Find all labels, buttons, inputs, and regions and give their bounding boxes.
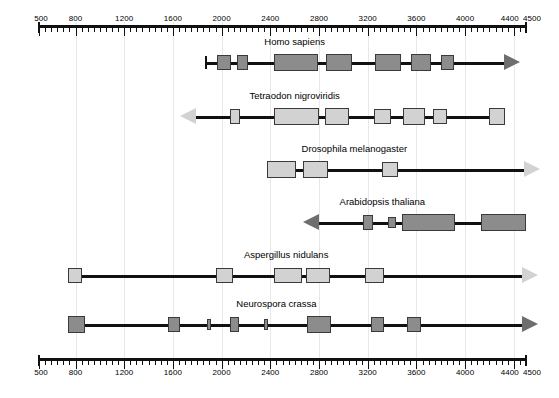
axis-tick-3900	[453, 361, 454, 365]
axis-tick-2500	[283, 361, 284, 365]
axis-tick-2750	[313, 28, 314, 32]
axis-tick-label-1600: 1600	[164, 14, 182, 23]
axis-tick-550	[45, 28, 46, 32]
axis-tick-2050	[228, 361, 229, 365]
arrow-end-homo-sapiens	[504, 54, 520, 70]
figure-canvas: 5008001200160020002400280032003600400044…	[0, 0, 559, 398]
axis-tick-label-4500: 4500	[523, 14, 541, 23]
axis-tick-2550	[289, 28, 290, 32]
axis-tick-3550	[410, 28, 411, 32]
axis-tick-4500	[526, 28, 527, 32]
axis-tick-750	[69, 28, 70, 32]
axis-tick-4050	[471, 28, 472, 32]
axis-tick-1200	[124, 28, 125, 36]
axis-tick-4450	[520, 28, 521, 32]
gene-box	[68, 316, 85, 333]
axis-tick-2300	[258, 28, 259, 32]
axis-tick-3350	[386, 361, 387, 365]
axis-tick-label-3600: 3600	[407, 368, 425, 377]
axis-tick-3700	[429, 28, 430, 32]
axis-tick-500	[39, 28, 40, 36]
axis-tick-1100	[112, 28, 113, 32]
axis-tick-3150	[362, 28, 363, 32]
axis-tick-750	[69, 361, 70, 365]
axis-tick-4500	[526, 361, 527, 365]
axis-tick-label-3200: 3200	[359, 14, 377, 23]
axis-tick-label-2000: 2000	[213, 368, 231, 377]
track-label-drosophila-melanogaster: Drosophila melanogaster	[302, 143, 408, 154]
axis-tick-1900	[209, 361, 210, 365]
axis-tick-label-1200: 1200	[115, 14, 133, 23]
track-drosophila-melanogaster: Drosophila melanogaster	[0, 143, 559, 189]
axis-tick-1700	[185, 28, 186, 32]
axis-tick-550	[45, 361, 46, 365]
axis-tick-2050	[228, 28, 229, 32]
axis-tick-1900	[209, 28, 210, 32]
axis-tick-2500	[283, 28, 284, 32]
track-aspergillus-nidulans: Aspergillus nidulans	[0, 249, 559, 295]
axis-tick-2250	[252, 28, 253, 32]
axis-tick-label-3600: 3600	[407, 14, 425, 23]
axis-tick-2450	[276, 28, 277, 32]
axis-tick-1650	[179, 361, 180, 365]
axis-tick-4450	[520, 361, 521, 365]
axis-tick-3850	[447, 361, 448, 365]
gene-box	[489, 108, 505, 125]
gene-box	[411, 54, 431, 71]
gene-box	[375, 54, 401, 71]
axis-tick-950	[94, 28, 95, 32]
axis-tick-3050	[349, 361, 350, 365]
axis-tick-4300	[502, 28, 503, 32]
axis-tick-label-500: 500	[34, 368, 48, 377]
axis-tick-3750	[435, 361, 436, 365]
axis-tick-label-4400: 4400	[501, 368, 519, 377]
axis-tick-3350	[386, 28, 387, 32]
axis-tick-1800	[197, 28, 198, 32]
axis-tick-3750	[435, 28, 436, 32]
axis-tick-4350	[508, 361, 509, 365]
axis-tick-1550	[167, 361, 168, 365]
axis-tick-1000	[100, 28, 101, 32]
gene-box	[303, 161, 328, 178]
axis-tick-1550	[167, 28, 168, 32]
gene-box	[216, 268, 233, 283]
gene-box	[407, 317, 422, 332]
gene-box	[264, 319, 268, 330]
gene-box	[403, 108, 425, 125]
gene-box	[306, 268, 330, 283]
axis-tick-2200	[246, 361, 247, 365]
axis-tick-2150	[240, 28, 241, 32]
axis-tick-3100	[356, 361, 357, 365]
axis-tick-3450	[398, 361, 399, 365]
gene-box	[217, 55, 232, 70]
gene-box	[363, 215, 372, 230]
axis-tick-1800	[197, 361, 198, 365]
axis-tick-3400	[392, 361, 393, 365]
axis-tick-1950	[216, 361, 217, 365]
gene-box	[382, 162, 398, 177]
gene-box	[267, 161, 296, 178]
axis-tick-label-800: 800	[69, 14, 83, 23]
axis-tick-3050	[349, 28, 350, 32]
gene-box	[274, 268, 302, 283]
axis-tick-2350	[264, 361, 265, 365]
axis-tick-4350	[508, 28, 509, 32]
arrow-end-aspergillus-nidulans	[522, 267, 538, 283]
axis-tick-3300	[380, 28, 381, 32]
backbone-tetraodon-nigroviridis	[196, 116, 504, 119]
axis-tick-2950	[337, 28, 338, 32]
axis-tick-2550	[289, 361, 290, 365]
axis-tick-3500	[404, 28, 405, 32]
axis-tick-3800	[441, 28, 442, 32]
axis-tick-3700	[429, 361, 430, 365]
axis-tick-2900	[331, 361, 332, 365]
axis-tick-2900	[331, 28, 332, 32]
gene-box	[326, 54, 352, 71]
start-tbar-homo-sapiens	[205, 56, 207, 69]
gene-box	[237, 55, 247, 70]
axis-tick-700	[63, 361, 64, 365]
arrow-start-tetraodon-nigroviridis	[180, 108, 196, 124]
axis-tick-1300	[136, 28, 137, 32]
axis-tick-1750	[191, 361, 192, 365]
axis-tick-800	[76, 28, 77, 36]
